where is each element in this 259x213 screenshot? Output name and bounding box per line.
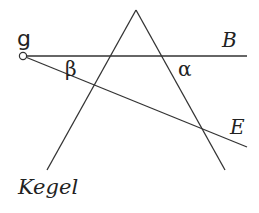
label-line-e: E: [229, 115, 245, 139]
label-angle-beta: β: [65, 57, 77, 81]
diagram-canvas: g β α B E Kegel: [0, 0, 259, 213]
point-g-marker: [19, 52, 26, 59]
label-cone: Kegel: [17, 175, 78, 199]
cone-left-edge: [47, 10, 136, 170]
label-line-b: B: [221, 28, 237, 52]
label-point-g: g: [17, 26, 31, 51]
label-angle-alpha: α: [178, 57, 192, 81]
cone-right-edge: [136, 10, 225, 170]
line-e: [23, 56, 247, 147]
